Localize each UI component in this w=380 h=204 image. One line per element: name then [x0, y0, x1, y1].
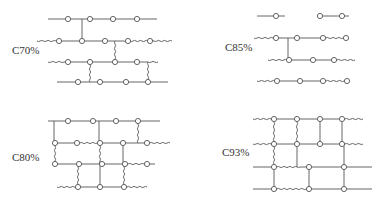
- crosslink-node-icon: [52, 161, 57, 166]
- crosslink-node-icon: [87, 16, 92, 21]
- crosslink-node-icon: [75, 184, 80, 189]
- crosslink-node-icon: [294, 141, 299, 146]
- crosslink-node-icon: [79, 38, 84, 43]
- crosslink-node-icon: [273, 13, 278, 18]
- panel-c80: C80%: [12, 118, 170, 189]
- flexible-chain-segment: [99, 143, 100, 164]
- flexible-chain-segment: [114, 41, 115, 62]
- flexible-chain-segment: [77, 164, 78, 187]
- crosslink-node-icon: [274, 78, 279, 83]
- flexible-chain-segment: [296, 119, 297, 144]
- flexible-chain-segment: [253, 118, 274, 119]
- crosslink-node-icon: [341, 186, 346, 191]
- crosslink-node-icon: [339, 116, 344, 121]
- crosslink-node-icon: [120, 140, 125, 145]
- flexible-chain-segment: [54, 143, 55, 164]
- crosslink-node-icon: [320, 78, 325, 83]
- panel-label-c80: C80%: [12, 151, 40, 163]
- crosslink-node-icon: [87, 59, 92, 64]
- crosslink-node-icon: [74, 140, 79, 145]
- panel-label-c85: C85%: [225, 41, 253, 53]
- flexible-chain-segment: [342, 143, 363, 144]
- flexible-chain-segment: [57, 186, 77, 187]
- panel-label-c93: C93%: [222, 146, 250, 158]
- crosslink-node-icon: [343, 35, 348, 40]
- flexible-chain-segment: [334, 59, 355, 60]
- crosslink-node-icon: [306, 164, 311, 169]
- crosslink-node-icon: [297, 78, 302, 83]
- crosslink-node-icon: [52, 140, 57, 145]
- crosslink-node-icon: [286, 57, 291, 62]
- flexible-chain-segment: [268, 59, 287, 60]
- flexible-chain-segment: [323, 37, 346, 38]
- network-nodes-c70: [56, 16, 152, 84]
- flexible-chain-segment: [254, 37, 273, 38]
- crosslink-node-icon: [56, 38, 61, 43]
- flexible-chain-segment: [37, 40, 56, 41]
- network-nodes-c85: [273, 13, 349, 83]
- network-figure: C70% C85% C80% C93%: [0, 0, 380, 204]
- crosslink-node-icon: [317, 13, 322, 18]
- crosslink-node-icon: [65, 59, 70, 64]
- flexible-chain-segment: [274, 166, 300, 167]
- flexible-chain-segment: [273, 144, 274, 167]
- panel-c93: C93%: [222, 116, 372, 191]
- crosslink-node-icon: [271, 164, 276, 169]
- crosslink-node-icon: [99, 161, 104, 166]
- crosslink-node-icon: [125, 38, 130, 43]
- crosslink-node-icon: [65, 16, 70, 21]
- crosslink-node-icon: [147, 38, 152, 43]
- crosslink-node-icon: [271, 116, 276, 121]
- crosslink-node-icon: [76, 161, 81, 166]
- crosslink-node-icon: [97, 140, 102, 145]
- flexible-chain-segment: [137, 121, 138, 143]
- crosslink-node-icon: [294, 116, 299, 121]
- network-edges-c93: [253, 118, 372, 189]
- flexible-chain-segment: [48, 61, 64, 62]
- crosslink-node-icon: [144, 161, 149, 166]
- flexible-chain-segment: [125, 163, 147, 164]
- crosslink-node-icon: [65, 118, 70, 123]
- crosslink-node-icon: [90, 118, 95, 123]
- flexible-chain-segment: [124, 186, 147, 187]
- crosslink-node-icon: [121, 184, 126, 189]
- crosslink-node-icon: [145, 79, 150, 84]
- crosslink-node-icon: [122, 161, 127, 166]
- crosslink-node-icon: [341, 164, 346, 169]
- crosslink-node-icon: [306, 186, 311, 191]
- network-edges-c80: [48, 121, 170, 188]
- crosslink-node-icon: [317, 116, 322, 121]
- crosslink-node-icon: [273, 35, 278, 40]
- flexible-chain-segment: [257, 80, 275, 81]
- flexible-chain-segment: [147, 142, 170, 143]
- crosslink-node-icon: [271, 186, 276, 191]
- crosslink-node-icon: [310, 57, 315, 62]
- crosslink-node-icon: [339, 13, 344, 18]
- network-edges-c70: [37, 19, 172, 82]
- crosslink-node-icon: [294, 35, 299, 40]
- flexible-chain-segment: [323, 80, 347, 81]
- crosslink-node-icon: [344, 78, 349, 83]
- flexible-chain-segment: [253, 143, 274, 144]
- crosslink-node-icon: [317, 141, 322, 146]
- crosslink-node-icon: [97, 184, 102, 189]
- crosslink-node-icon: [135, 118, 140, 123]
- flexible-chain-segment: [77, 142, 100, 143]
- panel-c85: C85%: [225, 13, 355, 83]
- crosslink-node-icon: [144, 140, 149, 145]
- panel-c70: C70%: [12, 16, 172, 84]
- flexible-chain-segment: [342, 118, 363, 119]
- crosslink-node-icon: [271, 141, 276, 146]
- crosslink-node-icon: [75, 79, 80, 84]
- panel-label-c70: C70%: [12, 44, 40, 56]
- crosslink-node-icon: [113, 118, 118, 123]
- crosslink-node-icon: [331, 57, 336, 62]
- flexible-chain-segment: [274, 188, 309, 189]
- flexible-chain-segment: [273, 119, 274, 144]
- crosslink-node-icon: [320, 35, 325, 40]
- flexible-chain-segment: [123, 164, 124, 187]
- crosslink-node-icon: [134, 59, 139, 64]
- network-edges-c85: [254, 16, 355, 82]
- crosslink-node-icon: [102, 38, 107, 43]
- crosslink-node-icon: [110, 16, 115, 21]
